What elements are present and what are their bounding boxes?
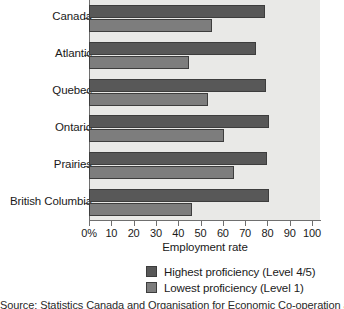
bar-british-columbia-lowest (89, 203, 192, 216)
bar-canada-lowest (89, 19, 212, 32)
y-axis-line (89, 0, 90, 221)
legend-item-2: Lowest proficiency (Level 1) (146, 280, 344, 295)
x-tick-10 (111, 221, 112, 226)
category-label-quebec: Quebec (52, 84, 92, 96)
x-tick-60 (223, 221, 224, 226)
bar-prairies-highest (89, 152, 267, 165)
legend-item-1: Highest proficiency (Level 4/5) (146, 264, 344, 279)
legend-label: Highest proficiency (Level 4/5) (164, 266, 316, 278)
plot-background (89, 0, 320, 221)
plot-area: 0%102030405060708090100 CanadaAtlanticQu… (0, 0, 344, 232)
x-axis-title: Employment rate (89, 241, 321, 253)
category-label-atlantic: Atlantic (55, 47, 92, 59)
bar-ontario-lowest (89, 129, 224, 142)
legend-label: Lowest proficiency (Level 1) (164, 282, 304, 294)
x-tick-80 (267, 221, 268, 226)
bar-prairies-lowest (89, 166, 234, 179)
x-axis-line (89, 220, 321, 221)
category-label-british-columbia: British Columbia (10, 195, 92, 207)
bar-quebec-highest (89, 79, 266, 92)
chart-figure: 0%102030405060708090100 CanadaAtlanticQu… (0, 0, 344, 309)
category-label-canada: Canada (52, 10, 92, 22)
legend-swatch-icon (146, 266, 157, 277)
x-tick-20 (134, 221, 135, 226)
bar-quebec-lowest (89, 93, 208, 106)
x-tick-30 (156, 221, 157, 226)
bar-british-columbia-highest (89, 189, 269, 202)
chart-legend: Highest proficiency (Level 4/5)Lowest pr… (146, 264, 344, 296)
x-tick-label: 100 (297, 227, 327, 239)
x-tick-90 (290, 221, 291, 226)
bar-canada-highest (89, 5, 265, 18)
legend-swatch-icon (146, 282, 157, 293)
x-tick-100 (312, 221, 313, 226)
bar-ontario-highest (89, 115, 269, 128)
bar-atlantic-lowest (89, 56, 189, 69)
x-tick-50 (201, 221, 202, 226)
category-label-prairies: Prairies (54, 158, 92, 170)
caption-text: Source: Statistics Canada and Organisati… (0, 299, 344, 309)
x-tick-0 (89, 221, 90, 226)
bar-atlantic-highest (89, 42, 256, 55)
x-tick-40 (178, 221, 179, 226)
x-tick-70 (245, 221, 246, 226)
category-label-ontario: Ontario (55, 121, 92, 133)
